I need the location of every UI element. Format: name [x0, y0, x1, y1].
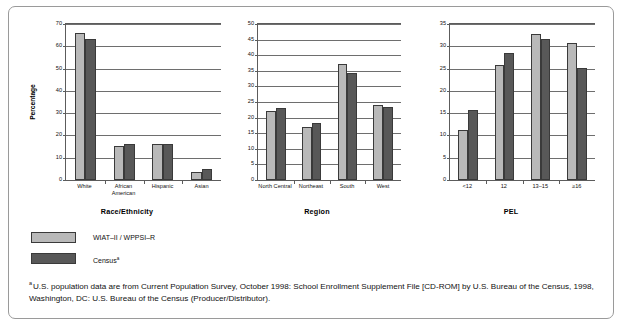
bars-layer [258, 24, 401, 180]
bar [373, 105, 383, 180]
x-axis-tick-label: ≥16 [559, 183, 596, 190]
x-axis-tick-label: 13–15 [522, 183, 559, 190]
bars-layer [450, 24, 595, 180]
x-axis-tick-label: Northeast [293, 183, 329, 190]
legend-item: Censusa [31, 252, 331, 267]
bar [541, 39, 551, 180]
bar [504, 53, 514, 180]
legend-label-wiat: WIAT–II / WPPSI–R [93, 233, 155, 243]
bar [114, 146, 124, 180]
bar [191, 172, 201, 180]
bar [338, 64, 348, 180]
y-axis-tick-mark [447, 180, 450, 181]
x-axis-tick-label: West [365, 183, 401, 190]
bar [124, 144, 134, 180]
x-axis-title: Race/Ethnicity [23, 207, 231, 216]
y-axis-label: Percentage [29, 84, 36, 120]
x-axis-tick-label: Asian [182, 183, 221, 190]
x-axis-title: Region [221, 207, 413, 216]
x-axis-tick-label: South [329, 183, 365, 190]
bar [266, 111, 276, 180]
chart-panel-region: 05101520253035404550 North CentralNorthe… [221, 15, 413, 225]
bar [383, 107, 393, 180]
bar [468, 110, 478, 180]
bar [567, 43, 577, 180]
x-axis-labels: WhiteAfrican AmericanHispanicAsian [65, 183, 221, 207]
bar [312, 123, 322, 180]
bar [347, 73, 357, 180]
bar [276, 108, 286, 180]
x-axis-tick-label: African American [104, 183, 143, 197]
legend-label-census: Censusa [93, 254, 119, 266]
plot-area: 05101520253035 [449, 23, 595, 181]
bars-layer [66, 24, 221, 180]
plot-area: 05101520253035404550 [257, 23, 401, 181]
x-axis-tick-label: 12 [486, 183, 523, 190]
bar [163, 144, 173, 180]
y-axis-tick-mark [255, 180, 258, 181]
legend: WIAT–II / WPPSI–R Censusa [31, 231, 331, 273]
legend-label-census-text: Census [93, 257, 117, 264]
footnote-text: U.S. population data are from Current Po… [29, 282, 594, 303]
bar [495, 65, 505, 180]
bar [531, 34, 541, 180]
x-axis-labels: North CentralNortheastSouthWest [257, 183, 401, 207]
legend-swatch-census [31, 253, 76, 264]
y-axis-label-wrap: Percentage [25, 23, 39, 181]
x-axis-title: PEL [413, 207, 609, 216]
legend-swatch-wiat [31, 232, 76, 243]
legend-item: WIAT–II / WPPSI–R [31, 231, 331, 246]
y-axis-tick-mark [63, 180, 66, 181]
x-axis-tick-label: Hispanic [143, 183, 182, 190]
charts-row: Percentage 010203040506070 WhiteAfrican … [9, 7, 615, 225]
x-axis-labels: <121213–15≥16 [449, 183, 595, 207]
bar [85, 39, 95, 180]
chart-panel-race-ethnicity: Percentage 010203040506070 WhiteAfrican … [23, 15, 231, 225]
bar [152, 144, 162, 180]
footnote-marker: a [29, 280, 32, 286]
bar [302, 127, 312, 180]
legend-label-census-superscript: a [117, 256, 120, 261]
x-axis-tick-label: North Central [257, 183, 293, 190]
bar [202, 169, 212, 180]
bar [577, 68, 587, 180]
x-axis-tick-label: White [65, 183, 104, 190]
footnote: aU.S. population data are from Current P… [29, 277, 599, 306]
bar [75, 33, 85, 180]
plot-area: 010203040506070 [65, 23, 221, 181]
bar [458, 130, 468, 180]
chart-panel-pel: 05101520253035 <121213–15≥16 PEL [413, 15, 609, 225]
figure-frame: Percentage 010203040506070 WhiteAfrican … [8, 6, 614, 319]
x-axis-tick-label: <12 [449, 183, 486, 190]
